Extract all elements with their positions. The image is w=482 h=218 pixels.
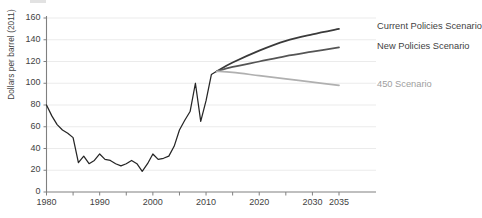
y-tick-label: 40 [15, 143, 41, 153]
x-tick-label: 2010 [186, 197, 226, 207]
series-label-current-policies: Current Policies Scenario [377, 21, 482, 31]
x-tick-label: 1990 [80, 197, 120, 207]
gridlines-group [47, 18, 377, 170]
axis-lines-group [47, 16, 377, 192]
series-label-new-policies: New Policies Scenario [377, 41, 470, 51]
y-tick-label: 80 [15, 99, 41, 109]
x-tick-label: 2020 [239, 197, 279, 207]
y-tick-label: 140 [15, 34, 41, 44]
x-tick-label: 2035 [319, 197, 359, 207]
series-group [47, 29, 340, 171]
y-tick-label: 0 [15, 186, 41, 196]
x-tick-label: 1980 [27, 197, 67, 207]
y-tick-label: 160 [15, 12, 41, 22]
y-tick-label: 120 [15, 56, 41, 66]
y-tick-label: 100 [15, 77, 41, 87]
x-tick-label: 2000 [133, 197, 173, 207]
series-label-450-scenario: 450 Scenario [377, 79, 432, 89]
y-tick-label: 20 [15, 164, 41, 174]
y-tick-label: 60 [15, 121, 41, 131]
